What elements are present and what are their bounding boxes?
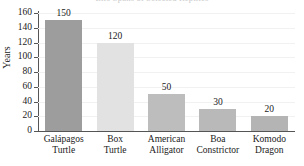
x-axis-category-line: Box bbox=[104, 134, 127, 145]
y-tick bbox=[34, 102, 38, 103]
bar-value-label: 150 bbox=[57, 9, 71, 19]
gridline bbox=[38, 13, 295, 14]
x-axis-category-label: KomodoDragon bbox=[253, 134, 286, 156]
bar bbox=[199, 109, 236, 131]
x-axis-line bbox=[38, 131, 295, 132]
y-tick-label: 20 bbox=[23, 112, 33, 122]
y-tick bbox=[34, 87, 38, 88]
bar bbox=[45, 20, 82, 131]
bar-value-label: 20 bbox=[265, 105, 275, 115]
y-tick bbox=[34, 131, 38, 132]
x-axis-category-line: Boa bbox=[197, 134, 240, 145]
x-axis-category-line: Turtle bbox=[104, 145, 127, 156]
bar-value-label: 30 bbox=[213, 98, 223, 108]
y-tick-label: 120 bbox=[18, 38, 32, 48]
x-axis-category-line: American bbox=[148, 134, 185, 145]
x-axis-category-line: Turtle bbox=[44, 145, 84, 156]
x-axis-category-label: BoaConstrictor bbox=[197, 134, 240, 156]
y-tick-label: 40 bbox=[23, 97, 33, 107]
bar bbox=[251, 116, 288, 131]
x-axis-category-line: Constrictor bbox=[197, 145, 240, 156]
bar bbox=[97, 43, 134, 132]
y-tick-label: 80 bbox=[23, 67, 33, 77]
x-axis-category-line: Komodo bbox=[253, 134, 286, 145]
y-tick bbox=[34, 28, 38, 29]
x-axis-category-label: AmericanAlligator bbox=[148, 134, 185, 156]
y-tick bbox=[34, 13, 38, 14]
y-tick-label: 100 bbox=[18, 53, 32, 63]
x-axis-category-label: BoxTurtle bbox=[104, 134, 127, 156]
chart-title-cropped: Life Spans of Selected Reptiles bbox=[0, 0, 304, 3]
bar-value-label: 50 bbox=[162, 83, 172, 93]
y-tick bbox=[34, 43, 38, 44]
bar bbox=[148, 94, 185, 131]
y-tick-label: 0 bbox=[27, 126, 32, 136]
y-tick-label: 160 bbox=[18, 8, 32, 18]
y-tick bbox=[34, 72, 38, 73]
y-tick bbox=[34, 116, 38, 117]
x-axis-category-line: Galápagos bbox=[44, 134, 84, 145]
y-tick-label: 60 bbox=[23, 82, 33, 92]
y-axis-title: Years bbox=[1, 35, 12, 81]
bar-chart: Life Spans of Selected Reptiles Years 02… bbox=[0, 0, 304, 166]
y-tick bbox=[34, 57, 38, 58]
x-axis-category-line: Alligator bbox=[148, 145, 185, 156]
y-tick-label: 140 bbox=[18, 23, 32, 33]
x-axis-category-label: GalápagosTurtle bbox=[44, 134, 84, 156]
plot-area: 020406080100120140160 150120503020 bbox=[38, 13, 295, 131]
bar-value-label: 120 bbox=[108, 32, 122, 42]
x-axis-category-line: Dragon bbox=[253, 145, 286, 156]
